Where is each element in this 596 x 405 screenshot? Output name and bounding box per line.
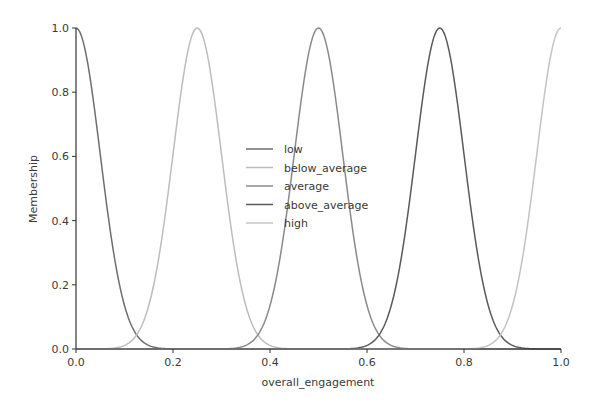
y-ticks: 0.00.20.40.60.81.0 <box>52 22 77 356</box>
y-axis-label: Membership <box>27 155 40 223</box>
membership-chart: 0.00.20.40.60.81.0 0.00.20.40.60.81.0 ov… <box>0 0 596 405</box>
x-tick-label: 0.4 <box>261 356 279 369</box>
y-tick-label: 0.2 <box>52 279 70 292</box>
x-tick-label: 0.6 <box>358 356 376 369</box>
y-tick-label: 0.0 <box>52 343 70 356</box>
x-tick-label: 0.0 <box>67 356 85 369</box>
legend-label-above-average: above_average <box>284 199 368 212</box>
legend-label-average: average <box>284 180 329 193</box>
x-tick-label: 0.8 <box>455 356 473 369</box>
x-ticks: 0.00.20.40.60.81.0 <box>67 349 570 369</box>
x-axis-label: overall_engagement <box>262 376 376 389</box>
y-tick-label: 0.6 <box>52 150 70 163</box>
y-tick-label: 0.8 <box>52 86 70 99</box>
y-tick-label: 0.4 <box>52 215 70 228</box>
legend-label-high: high <box>284 217 308 230</box>
x-tick-label: 1.0 <box>552 356 570 369</box>
x-tick-label: 0.2 <box>164 356 182 369</box>
y-tick-label: 1.0 <box>52 22 70 35</box>
legend-label-below-average: below_average <box>284 162 367 175</box>
legend-label-low: low <box>284 143 303 156</box>
